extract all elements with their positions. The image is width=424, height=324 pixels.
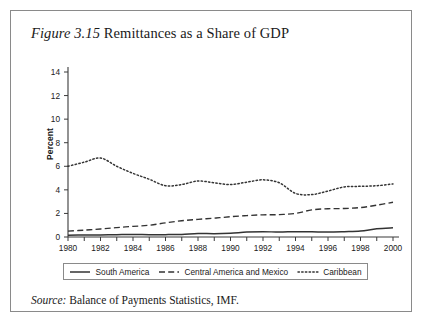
- x-axis-tick-label: 1998: [344, 243, 378, 253]
- legend-swatch-solid: [69, 268, 91, 276]
- y-axis-tick-label: 4: [38, 185, 60, 195]
- y-axis-tick-label: 6: [38, 161, 60, 171]
- legend-swatch-dotted: [297, 268, 319, 276]
- series-line-central-america-and-mexico: [68, 202, 393, 231]
- y-axis-tick-label: 10: [38, 114, 60, 124]
- x-axis-tick-label: 1982: [84, 243, 118, 253]
- x-axis-tick-label: 1994: [279, 243, 313, 253]
- source-text: Balance of Payments Statistics, IMF.: [69, 294, 239, 306]
- x-axis-tick-label: 1996: [311, 243, 345, 253]
- legend-label: Caribbean: [323, 267, 361, 277]
- x-axis-tick-label: 1986: [149, 243, 183, 253]
- x-axis-tick-label: 2000: [376, 243, 410, 253]
- series-line-caribbean: [68, 158, 393, 195]
- y-axis-tick-label: 8: [38, 138, 60, 148]
- x-axis-tick-label: 1984: [116, 243, 150, 253]
- legend-item[interactable]: Caribbean: [297, 267, 361, 277]
- x-axis-tick-label: 1990: [214, 243, 248, 253]
- figure-frame: Figure 3.15 Remittances as a Share of GD…: [10, 10, 412, 312]
- y-axis-tick-label: 14: [38, 67, 60, 77]
- legend-item[interactable]: Central America and Mexico: [158, 267, 288, 277]
- x-axis-tick-label: 1980: [51, 243, 85, 253]
- y-axis-tick-label: 2: [38, 208, 60, 218]
- y-axis-tick-label: 0: [38, 232, 60, 242]
- y-axis-tick-label: 12: [38, 91, 60, 101]
- series-line-south-america: [68, 228, 393, 235]
- chart-legend: South AmericaCentral America and MexicoC…: [63, 263, 368, 280]
- x-axis-tick-label: 1992: [246, 243, 280, 253]
- legend-item[interactable]: South America: [69, 267, 149, 277]
- legend-label: Central America and Mexico: [184, 267, 288, 277]
- source-note: Source: Balance of Payments Statistics, …: [31, 294, 239, 306]
- legend-label: South America: [95, 267, 149, 277]
- legend-swatch-dashed: [158, 268, 180, 276]
- source-label: Source:: [31, 294, 66, 306]
- x-axis-tick-label: 1988: [181, 243, 215, 253]
